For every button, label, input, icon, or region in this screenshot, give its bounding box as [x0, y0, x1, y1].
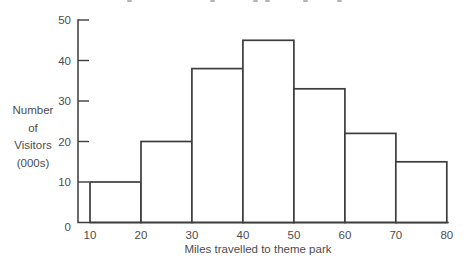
clipped-title-fragment — [337, 0, 342, 2]
y-tick-label: 20 — [58, 136, 71, 148]
clipped-title-fragment — [303, 0, 308, 2]
y-axis-title: Number of Visitors (000s) — [6, 102, 60, 172]
y-axis-title-line: Visitors — [6, 137, 60, 155]
clipped-title-fragment — [253, 0, 258, 2]
x-axis-title: Miles travelled to theme park — [158, 242, 358, 256]
x-tick-label: 20 — [135, 229, 148, 241]
histogram-plot-area: 010203040501020304050607080 — [0, 0, 469, 265]
x-tick-label: 70 — [389, 229, 402, 241]
clipped-title-fragment — [210, 0, 215, 2]
y-axis-title-line: Number — [6, 102, 60, 120]
histogram-bar — [192, 69, 243, 223]
y-axis-title-line: (000s) — [6, 155, 60, 173]
x-tick-label: 40 — [237, 229, 250, 241]
x-tick-label: 60 — [339, 229, 352, 241]
y-tick-label: 0 — [65, 221, 71, 233]
y-tick-label: 30 — [58, 95, 71, 107]
clipped-title-fragment — [127, 0, 132, 2]
clipped-title-fragment — [265, 0, 270, 2]
x-tick-label: 10 — [84, 229, 97, 241]
y-tick-label: 50 — [58, 14, 71, 26]
x-tick-label: 30 — [186, 229, 199, 241]
histogram-bar — [396, 162, 447, 223]
histogram-bar — [141, 142, 192, 223]
histogram-bar — [90, 182, 141, 223]
x-tick-label: 80 — [440, 229, 453, 241]
y-axis-title-line: of — [6, 120, 60, 138]
x-tick-label: 50 — [288, 229, 301, 241]
visitors-histogram: 010203040501020304050607080 Number of Vi… — [0, 0, 469, 265]
histogram-bar — [345, 133, 396, 222]
y-tick-label: 10 — [58, 176, 71, 188]
histogram-bar — [294, 89, 345, 223]
histogram-bar — [243, 40, 294, 222]
y-tick-label: 40 — [58, 55, 71, 67]
